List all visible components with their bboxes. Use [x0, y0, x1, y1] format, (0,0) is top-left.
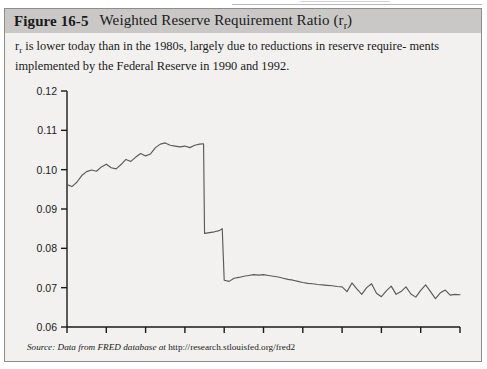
- y-axis-ticks: [61, 91, 67, 327]
- figure-title: Weighted Reserve Requirement Ratio (rr): [100, 12, 353, 31]
- line-chart: 0.060.070.080.090.100.110.12 19841986198…: [5, 75, 483, 337]
- x-axis-tick-label: 1992: [213, 336, 237, 337]
- figure-title-close-paren: ): [347, 12, 352, 28]
- x-axis-tick-label: 1994: [252, 336, 276, 337]
- x-axis-tick-label: 1990: [173, 336, 197, 337]
- figure-title-bar: Figure 16-5 Weighted Reserve Requirement…: [5, 9, 481, 33]
- y-axis-tick-label: 0.08: [37, 242, 58, 254]
- y-axis-tick-label: 0.07: [37, 282, 58, 294]
- source-note: Source: Data from FRED database at http:…: [27, 342, 295, 352]
- figure-box: Figure 16-5 Weighted Reserve Requirement…: [4, 8, 482, 362]
- figure-title-main: Weighted Reserve Requirement Ratio (r: [100, 12, 344, 28]
- y-axis-tick-labels: 0.060.070.080.090.100.110.12: [37, 85, 58, 333]
- y-axis-tick-label: 0.06: [37, 321, 58, 333]
- y-axis-tick-label: 0.09: [37, 203, 58, 215]
- x-axis-tick-label: 1998: [330, 336, 354, 337]
- source-label: Source: Data from FRED database at: [27, 342, 168, 352]
- caption-line-1: is lower today than in the 1980s, largel…: [22, 39, 406, 53]
- figure-caption: rr is lower today than in the 1980s, lar…: [15, 39, 471, 74]
- source-url: http://research.stlouisfed.org/fred2: [168, 342, 295, 352]
- y-axis-tick-label: 0.12: [37, 85, 58, 97]
- scan-artifact-rule: [232, 4, 482, 5]
- x-axis-tick-label: 1988: [134, 336, 158, 337]
- data-series-line: [67, 143, 460, 299]
- figure-number: Figure 16-5: [14, 13, 89, 30]
- x-axis-tick-label: 2002: [409, 336, 433, 337]
- x-axis-tick-label: 1996: [291, 336, 315, 337]
- chart-plot-area: 0.060.070.080.090.100.110.12 19841986198…: [5, 75, 483, 337]
- x-axis-tick-labels: 1984198619881990199219941996199820002002…: [55, 336, 472, 337]
- x-axis-ticks: [67, 327, 460, 333]
- y-axis-tick-label: 0.11: [37, 124, 57, 136]
- scan-artifact-top: [300, 1, 390, 2]
- x-axis-tick-label: 1986: [95, 336, 119, 337]
- y-axis-tick-label: 0.10: [37, 164, 58, 176]
- x-axis-tick-label: 2000: [370, 336, 394, 337]
- x-axis-tick-label: 1984: [55, 336, 79, 337]
- x-axis-tick-label: 2004: [448, 336, 472, 337]
